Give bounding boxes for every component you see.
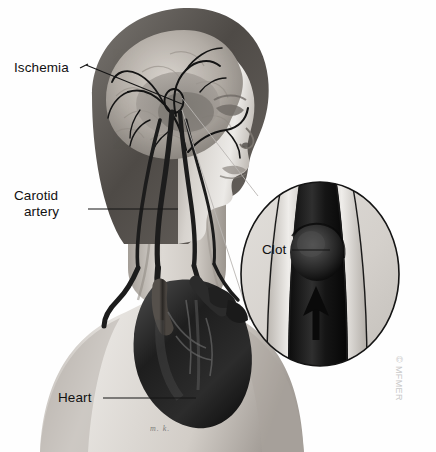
leader-ischemia-tick — [80, 64, 88, 68]
label-carotid-artery-line2: artery — [24, 204, 59, 220]
label-ischemia: Ischemia — [14, 60, 69, 75]
label-carotid-artery-line1: Carotid — [14, 188, 58, 204]
illustration-canvas: Ischemia Carotid artery Heart Clot © MFM… — [0, 0, 436, 452]
copyright-notice: © MFMER — [338, 356, 404, 372]
label-heart: Heart — [58, 390, 92, 405]
label-clot: Clot — [262, 242, 286, 257]
artist-signature: m. k. — [150, 424, 170, 433]
